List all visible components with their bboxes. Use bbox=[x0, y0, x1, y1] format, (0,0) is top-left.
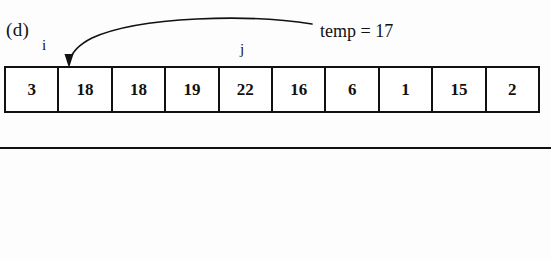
array-cell: 18 bbox=[113, 68, 166, 111]
array-cell: 18 bbox=[59, 68, 112, 111]
array-cell: 1 bbox=[380, 68, 433, 111]
array-cell: 3 bbox=[6, 68, 59, 111]
sorting-trace-figure: (d) i j temp = 17 3 18 18 19 22 16 6 1 1… bbox=[0, 0, 551, 260]
array-cell: 22 bbox=[220, 68, 273, 111]
array-cell: 15 bbox=[433, 68, 486, 111]
array-row-d: 3 18 18 19 22 16 6 1 15 2 bbox=[4, 66, 540, 113]
array-cell: 6 bbox=[326, 68, 379, 111]
array-cell: 16 bbox=[273, 68, 326, 111]
panel-e: (e) temp = 17 3 17 18 19 22 16 6 1 15 2 bbox=[0, 148, 551, 260]
array-cell: 19 bbox=[166, 68, 219, 111]
array-cell: 2 bbox=[487, 68, 538, 111]
panel-d: (d) i j temp = 17 3 18 18 19 22 16 6 1 1… bbox=[0, 0, 551, 148]
